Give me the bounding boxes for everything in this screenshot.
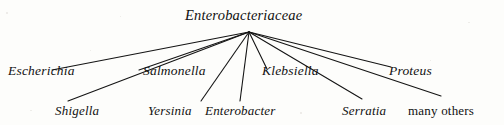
edge-line bbox=[249, 32, 391, 67]
root-node-label: Enterobacteriaceae bbox=[185, 8, 302, 23]
child-node-label: Salmonella bbox=[143, 64, 206, 78]
scan-speckle bbox=[120, 16, 121, 17]
child-node-label: Shigella bbox=[55, 104, 99, 117]
scan-speckle bbox=[468, 22, 470, 23]
child-node-label: Enterobacter bbox=[205, 104, 276, 117]
scan-speckle bbox=[430, 60, 431, 61]
child-node-label: many others bbox=[408, 104, 474, 117]
child-node-label: Escherichia bbox=[8, 64, 75, 78]
scan-speckle bbox=[6, 12, 8, 14]
child-node-label: Yersinia bbox=[148, 104, 192, 117]
scan-speckle bbox=[30, 110, 32, 111]
scan-speckle bbox=[210, 118, 211, 119]
child-node-label: Serratia bbox=[342, 104, 386, 117]
scan-speckle bbox=[90, 50, 91, 51]
child-node-label: Proteus bbox=[389, 64, 432, 78]
child-node-label: Klebsiella bbox=[262, 64, 319, 78]
enterobacteriaceae-family-tree-diagram: Enterobacteriaceae EscherichiaShigellaSa… bbox=[0, 0, 504, 125]
scan-speckle bbox=[300, 112, 302, 114]
